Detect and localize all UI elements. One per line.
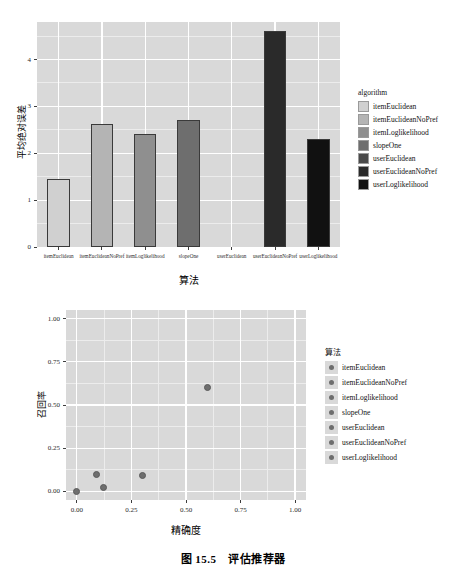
legend-color-swatch	[358, 153, 369, 164]
bar-chart-legend-label: userEuclideanNoPref	[373, 167, 437, 176]
scatter-y-tick-mark	[63, 491, 66, 492]
bar	[307, 139, 330, 247]
scatter-legend-item: itemEuclidean	[325, 360, 407, 375]
figure-caption: 图 15.5 评估推荐器	[0, 550, 466, 566]
gridline-major	[131, 310, 132, 500]
legend-color-swatch	[358, 101, 369, 112]
precision-recall-scatter: 0.000.250.500.751.00 0.000.250.500.751.0…	[0, 290, 466, 540]
legend-dot	[329, 410, 335, 416]
legend-point-swatch	[325, 391, 338, 404]
scatter-y-tick-mark	[63, 448, 66, 449]
legend-color-swatch	[358, 166, 369, 177]
bar-chart-y-tick-mark	[34, 106, 37, 107]
scatter-x-tick-label: 1.00	[275, 506, 315, 514]
scatter-y-axis-title: 召回率	[35, 375, 48, 435]
bar-chart-y-tick-mark	[34, 247, 37, 248]
scatter-y-tick-mark	[63, 361, 66, 362]
bar-chart-legend-label: slopeOne	[373, 141, 401, 150]
bar-chart-legend-item: userLoglikelihood	[358, 178, 438, 191]
legend-color-swatch	[358, 179, 369, 190]
bar-chart-x-tick-mark	[58, 247, 59, 250]
scatter-plot-area	[66, 310, 306, 500]
scatter-x-tick-label: 0.75	[221, 506, 261, 514]
bar-chart-legend-label: userEuclidean	[373, 154, 415, 163]
bar-chart-legend-title: algorithm	[358, 88, 438, 97]
bar-chart-legend-item: itemLoglikelihood	[358, 126, 438, 139]
bar-chart-y-tick-mark	[34, 59, 37, 60]
bar-chart-legend-label: itemLoglikelihood	[373, 128, 429, 137]
bar	[177, 120, 200, 247]
legend-color-swatch	[358, 140, 369, 151]
bar-chart-y-tick-label: 4	[7, 56, 31, 64]
bar-chart-legend-item: slopeOne	[358, 139, 438, 152]
legend-point-swatch	[325, 361, 338, 374]
scatter-x-tick-mark	[240, 500, 241, 503]
scatter-legend-label: slopeOne	[342, 408, 370, 417]
legend-point-swatch	[325, 406, 338, 419]
bar	[91, 124, 114, 247]
bar-chart-legend-item: userEuclideanNoPref	[358, 165, 438, 178]
bar-chart-x-tick-mark	[318, 247, 319, 250]
bar-chart-legend-item: userEuclidean	[358, 152, 438, 165]
scatter-legend-label: userEuclidean	[342, 423, 384, 432]
scatter-legend-label: itemEuclidean	[342, 363, 385, 372]
gridline-major	[185, 310, 186, 500]
scatter-x-tick-label: 0.00	[57, 506, 97, 514]
bar-chart-x-tick-mark	[231, 247, 232, 250]
legend-dot	[329, 455, 335, 461]
legend-point-swatch	[325, 421, 338, 434]
legend-point-swatch	[325, 451, 338, 464]
scatter-y-tick-mark	[63, 405, 66, 406]
scatter-x-tick-mark	[295, 500, 296, 503]
bar-chart-y-tick-mark	[34, 153, 37, 154]
bar-chart-x-tick-mark	[188, 247, 189, 250]
scatter-legend-item: itemEuclideanNoPref	[325, 375, 407, 390]
bar-chart-legend: algorithm itemEuclideanitemEuclideanNoPr…	[358, 88, 438, 191]
legend-point-swatch	[325, 436, 338, 449]
scatter-x-tick-mark	[131, 500, 132, 503]
scatter-x-axis-title: 精确度	[66, 522, 306, 537]
scatter-legend-item: userEuclideanNoPref	[325, 435, 407, 450]
bar	[264, 31, 287, 247]
scatter-legend-item: userEuclidean	[325, 420, 407, 435]
scatter-y-tick-label: 0.75	[33, 358, 60, 366]
scatter-x-tick-label: 0.25	[111, 506, 151, 514]
legend-dot	[329, 380, 335, 386]
scatter-legend-label: userLoglikelihood	[342, 453, 397, 462]
bar-chart-x-tick-mark	[275, 247, 276, 250]
mae-bar-chart: 01234 itemEuclideanitemEuclideanNoPrefit…	[0, 0, 466, 290]
scatter-x-tick-mark	[76, 500, 77, 503]
bar-chart-legend-item: itemEuclideanNoPref	[358, 113, 438, 126]
gridline-major	[294, 310, 295, 500]
scatter-point	[100, 484, 107, 491]
bar-chart-legend-label: itemEuclideanNoPref	[373, 115, 438, 124]
bar-chart-y-tick-label: 0	[7, 243, 31, 251]
legend-dot	[329, 440, 335, 446]
scatter-legend-label: itemLoglikelihood	[342, 393, 398, 402]
bar-chart-x-axis-title: 算法	[37, 272, 340, 287]
bar-chart-x-tick-mark	[101, 247, 102, 250]
bar-chart-legend-label: itemEuclidean	[373, 102, 416, 111]
scatter-x-tick-label: 0.50	[166, 506, 206, 514]
legend-color-swatch	[358, 114, 369, 125]
legend-dot	[329, 425, 335, 431]
bar-chart-y-tick-label: 1	[7, 196, 31, 204]
bar-chart-x-tick-label: userLoglikelihood	[278, 253, 358, 259]
scatter-y-tick-label: 0.00	[33, 487, 60, 495]
legend-point-swatch	[325, 376, 338, 389]
gridline-major	[240, 310, 241, 500]
scatter-x-tick-mark	[186, 500, 187, 503]
scatter-y-tick-label: 0.25	[33, 444, 60, 452]
scatter-legend-item: slopeOne	[325, 405, 407, 420]
bar-chart-x-tick-mark	[145, 247, 146, 250]
scatter-legend-title: 算法	[325, 346, 407, 357]
scatter-y-tick-label: 1.00	[33, 315, 60, 323]
scatter-legend-label: itemEuclideanNoPref	[342, 378, 407, 387]
bar-chart-legend-label: userLoglikelihood	[373, 180, 428, 189]
figure-root: 01234 itemEuclideanitemEuclideanNoPrefit…	[0, 0, 466, 575]
legend-color-swatch	[358, 127, 369, 138]
scatter-legend-label: userEuclideanNoPref	[342, 438, 406, 447]
scatter-legend: 算法 itemEuclideanitemEuclideanNoPrefitemL…	[325, 346, 407, 465]
bar-chart-y-tick-mark	[34, 200, 37, 201]
scatter-point	[93, 471, 100, 478]
